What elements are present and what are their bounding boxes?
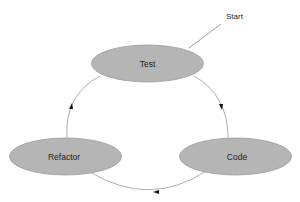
tdd-cycle-diagram: Start Test Code Refactor [0, 0, 300, 202]
edge-line [194, 76, 228, 138]
start-annotation: Start [189, 12, 244, 48]
arrowhead-icon [219, 104, 223, 110]
edge-line [90, 171, 206, 190]
node-code[interactable]: Code [180, 138, 292, 175]
start-pointer-line [189, 24, 221, 48]
node-label-test: Test [140, 59, 156, 69]
node-label-refactor: Refactor [48, 152, 80, 162]
arrowhead-icon [153, 190, 159, 194]
node-label-code: Code [227, 152, 248, 162]
edge-test-to-code [194, 76, 228, 138]
edge-refactor-to-test [67, 76, 100, 138]
node-refactor[interactable]: Refactor [10, 138, 122, 175]
node-test[interactable]: Test [92, 45, 204, 82]
edge-code-to-refactor [90, 171, 206, 194]
start-label: Start [226, 12, 244, 21]
